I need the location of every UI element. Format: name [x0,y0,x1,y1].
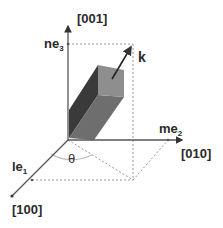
k-label: k [138,49,146,65]
axis-010-label: [010] [181,146,211,161]
prism [69,65,124,140]
le1-tick [31,179,34,182]
prism-light-face [98,65,124,97]
crystal-direction-diagram: [001] [010] [100] ne3 me2 le1 k θ [0,0,223,228]
theta-label: θ [68,151,75,166]
me2-tick [167,139,170,142]
me2-label: me2 [159,121,183,138]
axis-100-label: [100] [12,202,42,217]
ne3-tick [67,43,70,46]
axis-001-label: [001] [77,11,107,26]
axis-100-end-dot [10,194,13,197]
le1-label: le1 [12,159,28,176]
ne3-label: ne3 [44,36,64,53]
